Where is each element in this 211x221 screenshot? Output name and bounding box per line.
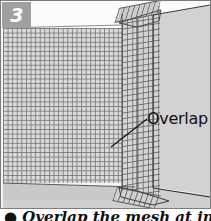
- illustration-figure: 3 Overlap ● Overlap the mesh at inside c…: [0, 0, 211, 221]
- wire-mesh-overlap-return: [122, 6, 160, 200]
- figure-caption-text: ● Overlap the mesh at inside corners.: [4, 210, 211, 221]
- right-wall-plane: [153, 5, 210, 195]
- figure-caption: ● Overlap the mesh at inside corners.: [4, 210, 211, 221]
- wire-mesh-front-wall: [3, 28, 122, 183]
- step-number-badge: 3: [2, 2, 31, 28]
- illustration-frame: 3 Overlap: [0, 0, 211, 209]
- overlap-callout-label: Overlap: [147, 109, 208, 128]
